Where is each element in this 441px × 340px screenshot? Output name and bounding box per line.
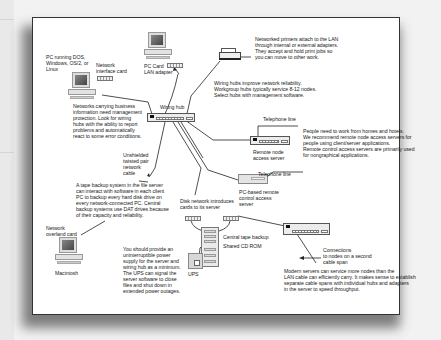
- pc-dos-computer-icon: [68, 72, 98, 102]
- remote-node-server-icon: [250, 136, 290, 145]
- remote-access-note: People need to work from homes and hotel…: [303, 128, 414, 158]
- utp-cable-label: Unshielded twisted pair network cable: [123, 152, 149, 176]
- overlan-card-label: Network overland card: [46, 225, 77, 237]
- tape-backup-note: A tape backup system in the file server …: [76, 182, 169, 218]
- wiring-hub-label: Wiring hub: [160, 104, 184, 110]
- disk-network-label: Disk network introduces cards to its ser…: [180, 198, 234, 210]
- second-span-hub-icon: [283, 223, 330, 235]
- telephone-line-2-label: Telephone line: [258, 171, 291, 177]
- macintosh-label: Macintosh: [55, 270, 78, 276]
- telephone-line-1-label: Telephone line: [263, 116, 296, 122]
- management-note: Networks carrying business information n…: [73, 103, 142, 139]
- pc-remote-label: PC-based remote control access server: [239, 189, 279, 207]
- pc-card-adapter-icon: [167, 63, 183, 68]
- nic-label: Network interface card: [96, 62, 127, 74]
- ups-icon: [188, 253, 203, 269]
- macintosh-computer-icon: [55, 237, 85, 267]
- wiring-hub-icon: [147, 113, 195, 122]
- printers-note: Networked printers attach to the LAN thr…: [255, 36, 338, 60]
- diagram-frame: PC running DOS, Windows, OS/2, or Linux …: [32, 17, 400, 315]
- central-tape-label: Central tape backup: [223, 234, 268, 240]
- divider: [0, 19, 14, 20]
- pc-card-computer-icon: [144, 32, 174, 62]
- hubs-note: Wiring hubs improve network reliability.…: [214, 80, 316, 98]
- connections-label: Connections to nodes on a second cable s…: [323, 247, 372, 265]
- ups-label: UPS: [188, 271, 199, 277]
- remote-node-label: Remote node access server: [253, 149, 284, 161]
- disk-card-2-icon: [223, 216, 239, 221]
- file-server-icon: [201, 227, 219, 267]
- network-card-icon: [97, 76, 113, 81]
- pc-dos-label: PC running DOS, Windows, OS/2, or Linux: [46, 54, 88, 72]
- page-margin: [0, 0, 14, 340]
- shared-cd-label: Shared CD ROM: [223, 243, 262, 249]
- divider: [0, 152, 14, 153]
- disk-card-1-icon: [185, 216, 201, 221]
- printer-icon: [219, 48, 243, 62]
- ups-note: You should provide an uninterruptible po…: [123, 246, 181, 294]
- modern-servers-note: Modern servers can service more nodes th…: [284, 268, 416, 292]
